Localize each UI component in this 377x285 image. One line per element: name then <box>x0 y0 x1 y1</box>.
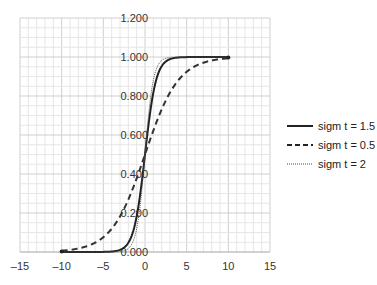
legend-item-solid: sigm t = 1.5 <box>287 116 375 135</box>
legend-label: sigm t = 2 <box>318 158 366 170</box>
legend-item-dotted: sigm t = 2 <box>287 154 375 173</box>
svg-text:1.200: 1.200 <box>120 12 148 24</box>
svg-text:–15: –15 <box>11 260 29 272</box>
svg-text:0.600: 0.600 <box>120 129 148 141</box>
dashed-line-icon <box>287 142 313 148</box>
legend-item-dashed: sigm t = 0.5 <box>287 135 375 154</box>
svg-text:5: 5 <box>184 260 190 272</box>
svg-text:–10: –10 <box>52 260 70 272</box>
svg-text:0: 0 <box>142 260 148 272</box>
svg-text:1.000: 1.000 <box>120 51 148 63</box>
svg-text:10: 10 <box>222 260 234 272</box>
svg-text:15: 15 <box>264 260 276 272</box>
svg-text:–5: –5 <box>97 260 109 272</box>
dotted-line-icon <box>287 161 313 167</box>
legend-label: sigm t = 1.5 <box>318 120 375 132</box>
legend: sigm t = 1.5 sigm t = 0.5 sigm t = 2 <box>287 116 375 173</box>
legend-label: sigm t = 0.5 <box>318 139 375 151</box>
solid-line-icon <box>287 123 313 129</box>
svg-text:0.800: 0.800 <box>120 90 148 102</box>
